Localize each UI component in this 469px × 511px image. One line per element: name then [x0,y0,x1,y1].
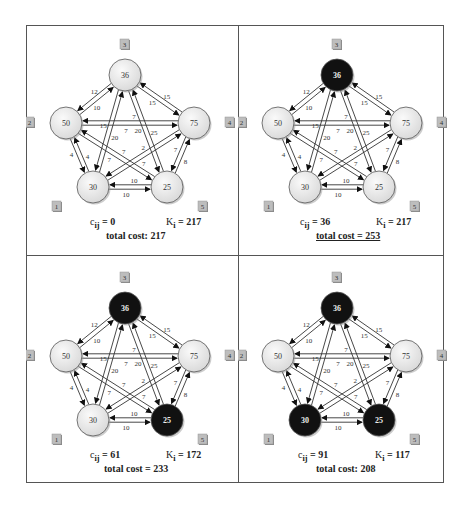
edge-weight: 12 [303,88,311,96]
node-id-tag: 5 [198,434,208,445]
edge-weight: 7 [124,127,128,135]
edge-weight: 7 [122,148,126,156]
edge-weight: 25 [362,129,370,137]
edge-weight: 8 [396,391,400,399]
node-id-tag: 5 [410,434,420,445]
node-5: 25 [363,404,397,438]
node-4: 75 [178,107,212,141]
edge-weight: 4 [86,153,90,161]
edge-weight: 20 [323,134,331,142]
node-value: 36 [333,71,341,80]
svg-text:3: 3 [335,274,339,282]
edge-weight: 10 [305,337,313,345]
edge-4-5: 78 [172,137,190,173]
edge-weight: 15 [149,99,157,107]
edge-weight: 4 [282,151,286,159]
node-value: 50 [62,352,70,361]
svg-text:3: 3 [123,41,127,49]
edge-weight: 20 [111,134,119,142]
node-id-tag: 1 [264,434,274,445]
svg-text:4: 4 [228,119,232,127]
node-value: 50 [274,119,282,128]
graph-canvas: 1012151577152020254478101077723015023637… [238,25,450,255]
edge-2-4: 77 [82,113,178,135]
node-id-tag: 2 [26,350,35,361]
edge-2-4: 77 [294,113,390,135]
edge-weight: 10 [343,410,351,418]
node-value: 30 [301,183,309,192]
node-id-tag: 4 [437,117,447,128]
node-5: 25 [151,404,185,438]
node-value: 36 [333,304,341,313]
node-1: 30 [289,404,323,438]
node-3: 36 [109,59,143,93]
svg-text:5: 5 [201,203,205,211]
edge-weight: 4 [86,386,90,394]
edge-2-1: 44 [70,138,90,172]
node-value: 25 [163,183,171,192]
edge-3-4: 1515 [137,316,182,348]
edge-2-3: 1012 [78,316,113,347]
edge-weight: 7 [344,113,348,121]
edge-weight: 7 [336,360,340,368]
node-id-tag: 3 [332,39,342,50]
edge-weight: 15 [361,99,369,107]
node-id-tag: 4 [225,117,235,128]
edge-weight: 7 [174,379,178,387]
edge-weight: 4 [70,151,74,159]
total-cost: total cost: 217 [106,230,165,241]
edge-3-4: 1515 [349,316,394,348]
graph-canvas: 1012151577152020254478101077723015023637… [26,25,238,255]
node-5: 25 [151,171,185,205]
svg-text:2: 2 [28,352,32,360]
edge-4-5: 78 [384,370,402,406]
ki-value: Ki = 117 [375,449,410,463]
svg-text:1: 1 [267,203,271,211]
node-4: 75 [390,340,424,374]
edge-weight: 2 [141,144,145,152]
edge-weight: 15 [100,355,108,363]
edge-weight: 15 [375,93,383,101]
edge-weight: 8 [184,391,188,399]
total-cost: total cost = 253 [316,230,380,241]
total-cost: total cost = 233 [104,463,168,474]
node-3: 36 [321,292,355,326]
node-value: 36 [121,71,129,80]
node-id-tag: 5 [198,201,208,212]
svg-text:1: 1 [55,436,59,444]
edge-weight: 7 [142,160,146,168]
edge-weight: 10 [343,177,351,185]
edge-weight: 7 [108,156,112,164]
edge-weight: 15 [163,326,171,334]
node-id-tag: 4 [225,350,235,361]
edge-4-5: 78 [384,137,402,173]
edge-3-4: 1515 [137,83,182,115]
edge-weight: 10 [123,424,131,432]
edge-1-5: 1010 [109,410,151,432]
node-value: 50 [62,119,70,128]
edge-2-1: 44 [70,371,90,405]
ki-value: Ki = 172 [166,449,201,463]
svg-text:4: 4 [440,352,444,360]
edge-weight: 2 [353,144,357,152]
node-1: 30 [289,171,323,205]
svg-text:5: 5 [413,436,417,444]
node-value: 75 [190,119,198,128]
edge-weight: 20 [347,127,355,135]
node-2: 50 [50,107,84,141]
edge-weight: 15 [361,332,369,340]
svg-text:4: 4 [228,352,232,360]
node-value: 75 [402,352,410,361]
edge-weight: 12 [91,321,99,329]
node-value: 30 [89,183,97,192]
node-id-tag: 3 [120,39,130,50]
edge-weight: 7 [132,113,136,121]
edge-weight: 7 [122,381,126,389]
node-2: 50 [262,340,296,374]
node-value: 25 [163,416,171,425]
node-value: 75 [190,352,198,361]
graph-canvas: 1012151577152020254478101077723015023637… [238,255,450,485]
edge-weight: 20 [135,360,143,368]
edge-weight: 7 [334,381,338,389]
edge-weight: 8 [396,158,400,166]
